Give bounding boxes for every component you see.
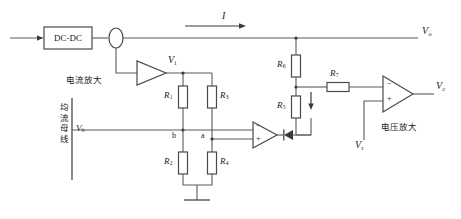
input-wire xyxy=(10,35,43,41)
vi-junction-dot xyxy=(181,71,184,74)
resistor-R3-body xyxy=(208,86,217,108)
resistor-R7-label: R7 xyxy=(330,69,339,79)
resistor-R4-body xyxy=(208,152,217,174)
dcdc-label: DC-DC xyxy=(44,33,92,43)
voltage-amp-plus-sign: + xyxy=(387,95,392,103)
voltage-amp-label: 电压放大 xyxy=(381,120,417,132)
r5-current-arrow xyxy=(308,92,313,110)
output-vo-label: Vo xyxy=(422,26,432,37)
comparator-minus-sign: − xyxy=(256,122,261,130)
resistor-R6-label: R6 xyxy=(277,60,286,70)
current-amp-label: 电流放大 xyxy=(66,73,102,85)
resistor-R4-label: R4 xyxy=(220,157,229,167)
sensor-output-wire xyxy=(116,48,137,73)
node-b-label: b xyxy=(172,132,176,140)
current-sensor-icon xyxy=(109,28,123,48)
bus-label: 均流母线 xyxy=(58,103,67,145)
resistor-R1-label: R1 xyxy=(164,91,173,101)
schematic-canvas: DC-DC I Vo Vi 电流放大 均流母线 Vb b a R1 R2 R3 … xyxy=(0,0,461,219)
vb-label: Vb xyxy=(76,124,85,134)
current-I-label: I xyxy=(222,11,225,21)
r5-bottom-wire xyxy=(296,118,311,135)
resistor-R6-body xyxy=(292,55,301,77)
current-amplifier-symbol xyxy=(137,61,166,85)
vr-label: Vr xyxy=(355,140,363,151)
resistor-R2-label: R2 xyxy=(164,157,173,167)
comparator-plus-sign: + xyxy=(256,135,261,143)
vc-label: Vc xyxy=(436,81,445,92)
diode-to-r5-wire xyxy=(299,118,311,135)
resistor-R1-body xyxy=(179,86,188,108)
vi-label: Vi xyxy=(168,55,176,66)
resistor-R7-body xyxy=(327,83,349,92)
resistor-R5-label: R5 xyxy=(277,101,286,111)
bottom-rail-wire xyxy=(183,174,212,185)
vo-tap-dot xyxy=(294,36,297,39)
resistor-R2-body xyxy=(179,152,188,174)
resistor-R3-label: R3 xyxy=(220,91,229,101)
resistor-R5-body xyxy=(292,96,301,118)
voltage-amp-minus-sign: − xyxy=(387,80,392,88)
node-a-label: a xyxy=(201,132,205,140)
node-a-dot xyxy=(210,137,213,140)
current-direction-arrow xyxy=(185,23,246,29)
